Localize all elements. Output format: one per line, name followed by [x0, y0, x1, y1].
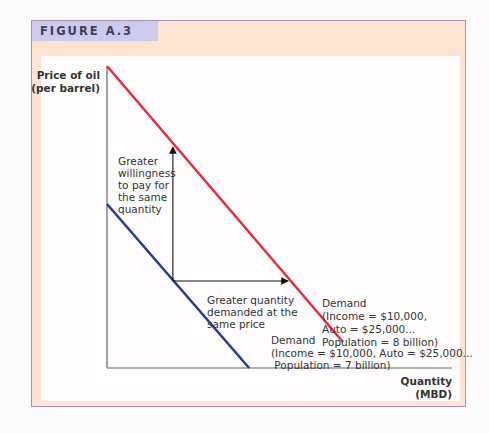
demand-8b-label: Demand(Income = $10,000,Auto = $25,000..…: [322, 297, 438, 348]
willingness-annotation-line: the same: [118, 191, 167, 203]
quantity-annotation: Greater quantitydemanded at thesame pric…: [207, 294, 298, 330]
demand-chart: Price of oil(per barrel)Quantity(MBD)Dem…: [0, 0, 489, 433]
willingness-annotation-line: to pay for: [118, 179, 170, 191]
x-axis-label-line: (MBD): [415, 388, 452, 400]
x-axis-label: Quantity(MBD): [401, 375, 453, 400]
y-axis-label: Price of oil(per barrel): [31, 69, 100, 94]
y-axis-label-line: Price of oil: [37, 69, 100, 81]
demand-8b-label-line: Demand: [322, 297, 367, 309]
quantity-annotation-line: demanded at the: [207, 306, 298, 318]
willingness-annotation-line: willingness: [118, 167, 176, 179]
willingness-annotation-line: Greater: [118, 155, 159, 167]
x-axis-label-line: Quantity: [401, 375, 453, 387]
quantity-annotation-line: Greater quantity: [207, 294, 294, 306]
y-axis-label-line: (per barrel): [31, 82, 100, 94]
willingness-annotation: Greaterwillingnessto pay forthe samequan…: [118, 155, 176, 215]
willingness-annotation-line: quantity: [118, 203, 162, 215]
quantity-annotation-line: same price: [207, 318, 265, 330]
demand-8b-label-line: (Income = $10,000,: [322, 310, 427, 322]
demand-7b-label-line: Demand: [271, 334, 316, 346]
demand-line-population-7b: [107, 204, 249, 368]
demand-7b-label-line: Population = 7 billion): [271, 359, 391, 371]
demand-8b-label-line: Auto = $25,000...: [322, 323, 415, 335]
demand-7b-label-line: (Income = $10,000, Auto = $25,000...: [271, 347, 473, 359]
